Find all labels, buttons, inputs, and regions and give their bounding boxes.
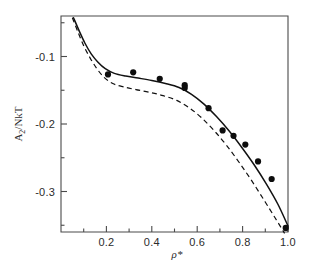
data-point [182, 85, 188, 91]
data-point [220, 127, 226, 133]
x-tick-label: 0.4 [144, 236, 160, 248]
data-point [105, 71, 111, 77]
theory-solid-curve [73, 18, 288, 226]
x-tick-label: 0.8 [235, 236, 251, 248]
y-tick-label: -0.2 [35, 118, 55, 130]
y-tick-label: -0.3 [35, 186, 55, 198]
curves-group [72, 18, 288, 234]
data-point [157, 76, 163, 82]
plot-frame [61, 16, 288, 232]
y-axis-title-main: A [12, 134, 24, 142]
data-point [230, 133, 236, 139]
axis-ticks [61, 23, 288, 232]
data-points-group [105, 69, 289, 231]
x-axis-title: ρ* [171, 248, 183, 260]
data-point [130, 69, 136, 75]
plot-canvas: 0.20.40.60.81.0 -0.1-0.2-0.3 ρ* A2/NkT [0, 0, 317, 272]
y-tick-labels: -0.1-0.2-0.3 [35, 51, 55, 198]
y-axis-title: A2/NkT [12, 106, 27, 141]
x-tick-label: 0.6 [189, 236, 205, 248]
data-point [283, 225, 289, 231]
x-tick-label: 1.0 [280, 236, 296, 248]
y-tick-label: -0.1 [35, 51, 55, 63]
theory-dashed-curve [72, 18, 284, 234]
data-point [255, 158, 261, 164]
y-axis-title-text: A2/NkT [12, 106, 27, 141]
x-axis-title-text: ρ* [171, 248, 183, 260]
x-tick-labels: 0.20.40.60.81.0 [98, 236, 296, 248]
data-point [242, 141, 248, 147]
data-point [269, 176, 275, 182]
x-tick-label: 0.2 [98, 236, 114, 248]
chart-figure: 0.20.40.60.81.0 -0.1-0.2-0.3 ρ* A2/NkT [0, 0, 317, 272]
data-point [205, 105, 211, 111]
y-axis-title-rest: /NkT [12, 106, 24, 130]
